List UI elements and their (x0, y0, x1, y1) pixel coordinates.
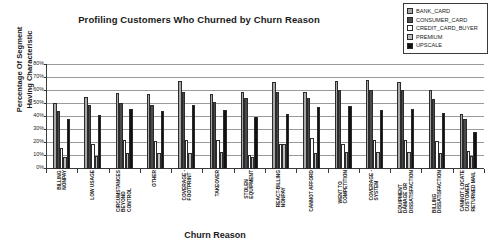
bar-group (77, 64, 108, 169)
bar (286, 114, 289, 169)
bar (98, 115, 101, 169)
bar (161, 111, 164, 169)
bar (442, 113, 445, 169)
x-axis-label: BILLINGNONPAY (56, 170, 67, 190)
legend-item[interactable]: PREMIUM (407, 33, 484, 42)
plot-wrapper: 80%70%60%50%40%30%20%10%0% (46, 64, 484, 169)
x-axis-label: REACT-BILLINGNONPAY (275, 170, 286, 207)
bar (473, 132, 476, 169)
chart-container: Profiling Customers Who Churned by Churn… (0, 0, 490, 246)
bar (254, 117, 257, 170)
legend-swatch-icon (407, 34, 413, 40)
bar-group (296, 64, 327, 169)
x-label-cell: COVERAGE -SYSTEM (359, 170, 390, 232)
y-tick-label: 20% (33, 139, 44, 144)
x-axis-title: Churn Reason (0, 230, 490, 240)
x-label-cell: CIRCUMSTANCESBEYONDCONTROL (109, 170, 140, 232)
bar (348, 106, 351, 169)
x-axis-label: CANNOT AFFORD (309, 170, 314, 212)
bar (192, 105, 195, 169)
x-axis-label: CIRCUMSTANCESBEYONDCONTROL (116, 170, 132, 212)
x-label-cell: OTHER (140, 170, 171, 232)
x-axis-label: COVERAGE -SYSTEM (369, 170, 380, 200)
y-tick-label: 10% (33, 152, 44, 157)
legend-item[interactable]: CONSUMER_CARD (407, 16, 484, 25)
legend-swatch-icon (407, 8, 413, 14)
x-label-cell: TAKEOVER (202, 170, 233, 232)
x-label-cell: CANNOT AFFORD (296, 170, 327, 232)
x-axis-label: STOLENEQUIPMENT (244, 170, 255, 199)
bar-group (46, 64, 77, 169)
bar-group (171, 64, 202, 169)
x-axis-label: EQUIPMENTDAMAGE ORDISSATISFACTION (398, 170, 414, 213)
x-label-cell: BILLINGNONPAY (46, 170, 77, 232)
bar-group (328, 64, 359, 169)
x-label-cell: EQUIPMENTDAMAGE ORDISSATISFACTION (390, 170, 421, 232)
legend-swatch-icon (407, 17, 413, 23)
x-label-cell: STOLENEQUIPMENT (234, 170, 265, 232)
x-label-cell: CANNOT LOCATECUSTOMER,RETURNED MAIL (453, 170, 484, 232)
bar-group (109, 64, 140, 169)
legend-item[interactable]: UPSCALE (407, 41, 484, 50)
x-label-cell: WENT TOCOMPETITION (328, 170, 359, 232)
y-tick-label: 80% (33, 61, 44, 66)
x-axis-label: OTHER (153, 170, 158, 187)
bar-group (421, 64, 452, 169)
legend-swatch-icon (407, 25, 413, 31)
y-tick-label: 40% (33, 113, 44, 118)
bar-group (390, 64, 421, 169)
legend-item-label: CREDIT_CARD_BUYER (416, 24, 478, 33)
legend-item-label: BANK_CARD (416, 7, 450, 16)
y-tick-label: 30% (33, 126, 44, 131)
y-tick-label: 70% (33, 74, 44, 79)
legend-item[interactable]: BANK_CARD (407, 7, 484, 16)
legend-item-label: PREMIUM (416, 33, 442, 42)
x-label-cell: LOW USAGE (77, 170, 108, 232)
x-label-cell: COVERAGE -FOOTPRINT (171, 170, 202, 232)
bar (129, 109, 132, 169)
bar-group (265, 64, 296, 169)
bar-group (234, 64, 265, 169)
bar (380, 110, 383, 169)
legend-swatch-icon (407, 43, 413, 49)
legend-item-label: CONSUMER_CARD (416, 16, 467, 25)
x-axis-label: WENT TOCOMPETITION (338, 170, 349, 203)
chart-legend: BANK_CARDCONSUMER_CARDCREDIT_CARD_BUYERP… (403, 3, 488, 54)
y-tick-label: 0% (36, 165, 44, 170)
x-axis-category-labels: BILLINGNONPAYLOW USAGECIRCUMSTANCESBEYON… (46, 170, 484, 232)
bar (67, 119, 70, 169)
bar-groups (46, 64, 484, 169)
bar-group (359, 64, 390, 169)
x-label-cell: BILLINGDISSATISFACTION (421, 170, 452, 232)
bar (411, 109, 414, 169)
y-tick-label: 50% (33, 100, 44, 105)
legend-item[interactable]: CREDIT_CARD_BUYER (407, 24, 484, 33)
legend-item-label: UPSCALE (416, 41, 442, 50)
x-axis-label: CANNOT LOCATECUSTOMER,RETURNED MAIL (460, 170, 476, 211)
bar-group (453, 64, 484, 169)
bar-group (202, 64, 233, 169)
x-axis-label: LOW USAGE (90, 170, 95, 200)
bar-group (140, 64, 171, 169)
bar (223, 110, 226, 169)
bar (317, 107, 320, 169)
x-tick-mark (484, 169, 485, 173)
x-axis-label: COVERAGE -FOOTPRINT (181, 170, 192, 200)
x-label-cell: REACT-BILLINGNONPAY (265, 170, 296, 232)
x-axis-label: TAKEOVER (215, 170, 220, 196)
y-tick-label: 60% (33, 87, 44, 92)
y-axis-title: Percentage Of Segment Having Characteris… (15, 15, 34, 125)
x-axis-label: BILLINGDISSATISFACTION (432, 170, 443, 213)
